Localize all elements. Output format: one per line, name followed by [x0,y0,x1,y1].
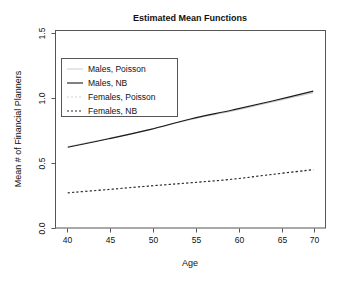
chart-figure: Estimated Mean Functions 1.5 1.0 0.5 0.0… [0,0,347,281]
x-tick-label: 50 [149,235,159,245]
legend-label: Females, NB [88,106,137,116]
x-tick-label: 40 [63,235,73,245]
y-tick-label: 1.5 [37,27,47,39]
x-tick-label: 60 [235,235,245,245]
chart-title: Estimated Mean Functions [133,13,247,23]
legend[interactable]: Males, Poisson Males, NB Females, Poisso… [62,59,178,117]
y-tick-label: 1.0 [37,92,47,104]
x-tick-label: 45 [106,235,116,245]
y-tick-label: 0.5 [37,157,47,169]
legend-label: Males, Poisson [88,64,146,74]
legend-label: Females, Poisson [88,92,156,102]
chart-background [0,0,347,281]
x-tick-label: 55 [192,235,202,245]
x-tick-label: 70 [310,235,320,245]
x-axis-title: Age [182,258,198,268]
y-axis-title: Mean # of Financial Planners [13,70,23,187]
estimated-mean-functions-chart: Estimated Mean Functions 1.5 1.0 0.5 0.0… [0,0,347,281]
x-tick-label: 65 [278,235,288,245]
y-tick-label: 0.0 [37,222,47,234]
legend-label: Males, NB [88,78,128,88]
